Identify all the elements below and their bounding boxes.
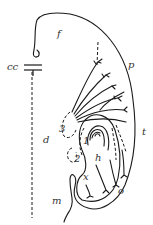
label-h: h — [95, 153, 101, 163]
label-cc: cc — [7, 62, 18, 72]
label-p: p — [128, 60, 134, 70]
label-1: 1 — [83, 136, 89, 146]
label-x: x — [83, 172, 89, 182]
label-t: t — [142, 127, 146, 137]
label-f: f — [57, 29, 61, 39]
label-2: 2 — [74, 154, 80, 164]
label-o: o — [118, 186, 124, 196]
label-3: 3 — [59, 124, 65, 134]
label-m: m — [52, 196, 61, 206]
diagram-drawing — [0, 0, 153, 225]
label-d: d — [43, 135, 49, 145]
